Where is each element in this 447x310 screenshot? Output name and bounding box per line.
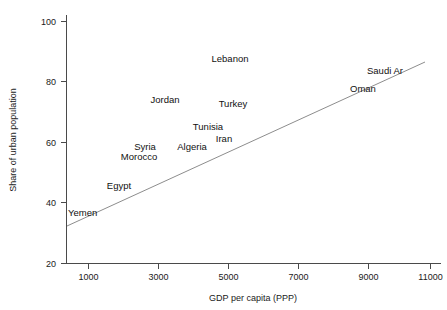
y-tick-label-20: 20 <box>46 259 56 269</box>
scatter-plot: 100 80 60 40 20 1000 3000 5000 7000 9000… <box>0 0 447 310</box>
data-label-turkey: Turkey <box>219 98 248 109</box>
data-label-morocco: Morocco <box>121 151 157 162</box>
y-tick-label-100: 100 <box>41 17 56 27</box>
x-tick-group <box>89 264 431 270</box>
data-label-oman: Oman <box>350 83 376 94</box>
y-axis-title: Share of urban population <box>8 88 18 192</box>
data-label-saudi-arabia: Saudi Ar <box>367 65 403 76</box>
data-label-syria: Syria <box>134 141 156 152</box>
x-axis-title: GDP per capita (PPP) <box>209 293 297 303</box>
data-label-tunisia: Tunisia <box>193 121 224 132</box>
data-label-iran: Iran <box>216 133 232 144</box>
x-tick-label-1000: 1000 <box>78 272 98 282</box>
data-label-algeria: Algeria <box>177 141 207 152</box>
y-tick-label-80: 80 <box>46 77 56 87</box>
data-label-jordan: Jordan <box>150 94 179 105</box>
x-tick-label-11000: 11000 <box>418 272 442 282</box>
data-label-lebanon: Lebanon <box>212 53 249 64</box>
chart-figure: Urbanization and income 100 80 60 40 20 <box>0 0 447 310</box>
x-tick-label-3000: 3000 <box>148 272 168 282</box>
y-tick-group <box>61 22 67 264</box>
data-label-yemen: Yemen <box>68 207 97 218</box>
y-tick-label-60: 60 <box>46 138 56 148</box>
x-tick-label-5000: 5000 <box>218 272 238 282</box>
x-tick-label-9000: 9000 <box>358 272 378 282</box>
y-tick-label-40: 40 <box>46 198 56 208</box>
x-tick-label-7000: 7000 <box>288 272 308 282</box>
data-label-egypt: Egypt <box>107 180 132 191</box>
